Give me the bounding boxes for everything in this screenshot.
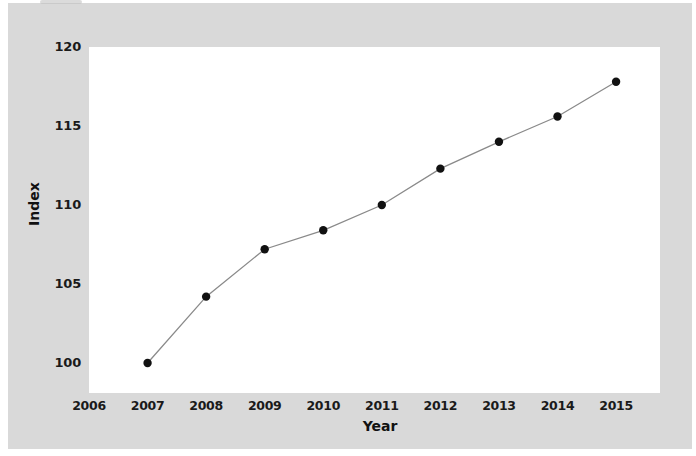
x-axis-tick-label: 2015	[588, 398, 644, 413]
y-axis-tick-label: 120	[47, 39, 81, 54]
x-axis-tick-label: 2009	[237, 398, 293, 413]
data-point-marker	[143, 359, 151, 367]
x-axis-title: Year	[340, 418, 420, 434]
data-point-marker	[378, 201, 386, 209]
x-axis-tick-label: 2006	[61, 398, 117, 413]
data-point-marker	[319, 226, 327, 234]
x-axis-tick-label: 2013	[471, 398, 527, 413]
data-point-marker	[612, 78, 620, 86]
series-line	[148, 82, 617, 363]
data-point-marker	[260, 245, 268, 253]
series-line-group	[148, 82, 617, 363]
chart-figure: 100105110115120 200620072008200920102011…	[0, 0, 696, 456]
y-axis-tick-label: 110	[47, 197, 81, 212]
x-axis-tick-label: 2010	[295, 398, 351, 413]
y-axis-tick-label: 105	[47, 276, 81, 291]
plot-area	[89, 47, 660, 393]
data-point-marker	[553, 112, 561, 120]
data-point-marker	[436, 164, 444, 172]
scan-artifact	[40, 0, 82, 4]
x-axis-tick-label: 2007	[120, 398, 176, 413]
y-axis-tick-label: 115	[47, 118, 81, 133]
y-axis-tick-label: 100	[47, 355, 81, 370]
y-axis-title: Index	[26, 164, 42, 244]
data-point-marker	[202, 292, 210, 300]
line-chart-svg	[89, 47, 660, 393]
x-axis-tick-label: 2014	[530, 398, 586, 413]
x-axis-tick-label: 2008	[178, 398, 234, 413]
data-point-marker	[495, 138, 503, 146]
x-axis-tick-label: 2012	[412, 398, 468, 413]
x-axis-tick-label: 2011	[354, 398, 410, 413]
